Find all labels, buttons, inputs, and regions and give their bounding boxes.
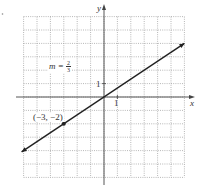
coordinate-plane: [0, 0, 200, 193]
slope-m: m =: [49, 61, 64, 71]
data-points: [62, 122, 66, 126]
x-axis-label: x: [190, 99, 194, 108]
slope-denominator: 3: [67, 67, 70, 73]
x-tick-label-1: 1: [114, 99, 119, 108]
axes: [16, 4, 195, 185]
y-tick-label-1: 1: [96, 80, 101, 89]
slope-annotation: m = 2 3: [48, 60, 72, 73]
data-line: [22, 43, 185, 152]
plotted-line: [22, 43, 185, 152]
slope-fraction: 2 3: [66, 60, 71, 73]
corner-dot: [2, 13, 4, 15]
data-point: [62, 122, 66, 126]
point-label: (−3, −2): [32, 113, 64, 122]
y-axis-arrow-icon: [102, 4, 106, 10]
y-axis-label: y: [97, 4, 101, 13]
